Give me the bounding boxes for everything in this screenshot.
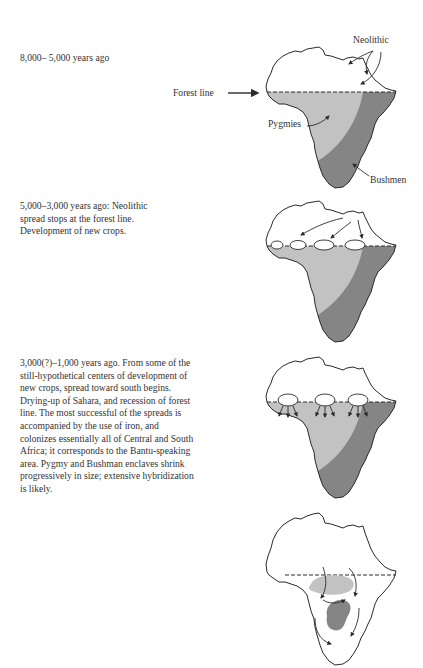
caption-line: spread stops at the forest line. (20, 213, 148, 226)
caption-line: 3,000(?)–1,000 years ago. From some of t… (20, 357, 194, 370)
caption-line: area. Pygmy and Bushman enclaves shrink (20, 458, 194, 471)
crop-center-oval (271, 241, 283, 249)
caption-line: new crops, spread toward south begins. (20, 382, 194, 395)
stage-1-caption: 8,000– 5,000 years ago (20, 52, 109, 65)
neolithic-label: Neolithic (353, 34, 389, 45)
caption-line: progressively in size; extensive hybridi… (20, 470, 194, 483)
neolithic-spread-arrows (301, 218, 362, 238)
crop-center-oval (345, 240, 365, 250)
crop-center-oval (290, 241, 306, 250)
map-stage-2 (265, 200, 405, 350)
crop-center-oval (314, 240, 334, 250)
caption-line: Development of new crops. (20, 225, 148, 238)
map-stage-3 (265, 356, 405, 506)
caption-line: 5,000–3,000 years ago: Neolithic (20, 200, 148, 213)
caption-line: colonizes essentially all of Central and… (20, 433, 194, 446)
crop-center-oval (348, 394, 368, 406)
map-stage-4 (265, 512, 405, 668)
caption-line: accompanied by the use of iron, and (20, 420, 194, 433)
map-stage-1 (265, 46, 405, 196)
neolithic-arrows (349, 51, 381, 84)
forest-line-arrow (226, 88, 266, 98)
crop-center-oval (278, 394, 298, 406)
caption-line: still-hypothetical centers of developmen… (20, 370, 194, 383)
caption-line: Africa; it corresponds to the Bantu-spea… (20, 445, 194, 458)
caption-line: line. The most successful of the spreads… (20, 407, 194, 420)
crop-centers (278, 394, 368, 406)
crop-center-oval (315, 394, 335, 406)
caption-line: Drying-up of Sahara, and recession of fo… (20, 395, 194, 408)
stage-3-caption: 3,000(?)–1,000 years ago. From some of t… (20, 357, 194, 496)
forest-line-label: Forest line (173, 87, 214, 98)
caption-line: 8,000– 5,000 years ago (20, 52, 109, 65)
stage-2-caption: 5,000–3,000 years ago: Neolithic spread … (20, 200, 148, 238)
caption-line: is likely. (20, 483, 194, 496)
